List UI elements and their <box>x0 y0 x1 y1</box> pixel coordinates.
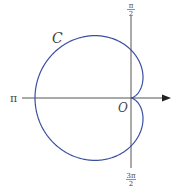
svg-text:2: 2 <box>129 180 133 188</box>
svg-text:2: 2 <box>129 10 133 18</box>
origin-label: O <box>118 101 128 115</box>
arrow-head-icon <box>162 95 171 102</box>
pi-label: π <box>10 92 17 105</box>
pi-over-2-label: π 2 <box>127 2 135 18</box>
svg-text:3π: 3π <box>126 172 135 180</box>
three-pi-over-2-label: 3π 2 <box>126 172 136 188</box>
curve-label: C <box>52 30 63 46</box>
svg-text:π: π <box>129 2 134 10</box>
polar-diagram: C O π π 2 3π 2 <box>0 0 185 193</box>
